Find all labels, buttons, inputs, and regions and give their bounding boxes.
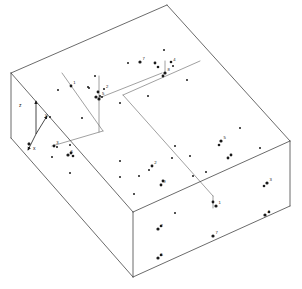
event-point [99,95,101,97]
event-point [259,147,261,149]
points-front-left-face [28,143,31,146]
event-point [174,145,176,147]
event-point [263,213,266,216]
event-point [157,66,160,69]
event-point [72,155,75,158]
event-point [172,65,174,67]
event-point [88,87,90,89]
event-point [101,96,103,98]
event-point [163,71,166,74]
event-point [211,234,214,237]
event-point [154,62,157,65]
event-point [119,160,121,162]
event-point [163,49,165,51]
block-diagram-figure: 741258362951 34725 zyx [0,0,302,289]
event-point [94,75,96,77]
event-point [171,157,173,159]
event-point [174,212,176,214]
event-point [192,175,194,177]
event-point [97,91,100,94]
event-point [227,157,230,160]
event-point [103,88,105,90]
event-point [156,227,159,230]
event-point [94,95,97,98]
event-point [189,155,191,157]
event-point [160,254,163,257]
event-point [219,139,222,142]
event-point [156,256,159,259]
event-point [81,117,83,119]
event-point [218,144,221,147]
event-point [239,127,241,129]
event-point [57,89,59,91]
event-point [160,225,163,228]
event-point [69,172,71,174]
event-point [230,154,233,157]
event-point [265,181,268,184]
event-point [186,79,188,81]
event-point [138,175,140,177]
event-point [28,143,31,146]
event-point [263,185,266,188]
event-point [148,169,150,171]
event-point [56,146,58,148]
event-point [133,193,135,195]
event-point [97,97,100,100]
event-point [53,145,56,148]
event-point [147,95,149,97]
event-point [162,75,165,78]
event-point [69,144,71,146]
event-point [49,116,51,118]
event-point [205,171,207,173]
event-point [151,165,154,168]
event-point [119,176,121,178]
event-point [127,62,129,64]
event-point [70,85,73,88]
event-point [212,201,215,204]
event-point [138,60,141,63]
event-point [268,211,271,214]
event-point [51,156,53,158]
event-point [119,102,121,104]
event-point [214,204,217,207]
event-point [66,153,69,156]
event-point [160,184,163,187]
event-point [170,61,173,64]
